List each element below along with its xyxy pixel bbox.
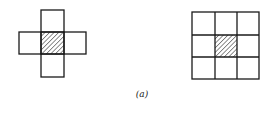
cell-center-hatched [215,35,237,57]
cell-top [41,10,64,32]
left-plus-diagram [19,10,86,77]
cell-left [19,32,41,54]
cell-bottom [41,54,64,77]
cell-right [64,32,86,54]
right-grid-diagram [192,12,259,79]
figure-caption: (a) [130,89,154,99]
cell-center-hatched [41,32,64,54]
